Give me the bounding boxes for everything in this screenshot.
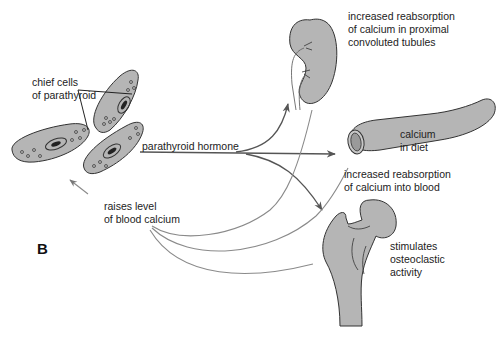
hormone-arrows	[140, 104, 335, 210]
label-line: activity	[390, 266, 445, 279]
label-line: chief cells	[32, 76, 96, 89]
label-line: osteoclastic	[390, 253, 445, 266]
label-line: of blood calcium	[104, 213, 180, 226]
label-line: stimulates	[390, 240, 445, 253]
label-line: of calcium in proximal	[348, 23, 455, 36]
kidney-illustration	[290, 19, 337, 110]
label-line: parathyroid hormone	[142, 140, 239, 152]
bone-label: stimulates osteoclastic activity	[390, 240, 445, 279]
label-line: calcium	[400, 128, 436, 141]
label-line: of parathyroid	[32, 89, 96, 102]
intestine-inner-label: calcium in diet	[400, 128, 436, 154]
kidney-label: increased reabsorption of calcium in pro…	[348, 10, 455, 49]
label-line: raises level	[104, 200, 180, 213]
label-line: of calcium into blood	[344, 181, 451, 194]
chief-cell-left	[12, 124, 89, 163]
hormone-label: parathyroid hormone	[142, 140, 239, 153]
label-line: increased reabsorption	[348, 10, 455, 23]
feedback-label: raises level of blood calcium	[104, 200, 180, 226]
femur-illustration	[323, 200, 396, 326]
label-line: increased reabsorption	[344, 168, 451, 181]
label-line: convoluted tubules	[348, 36, 455, 49]
chief-cells-label: chief cells of parathyroid	[32, 76, 96, 102]
intestine-label: increased reabsorption of calcium into b…	[344, 168, 451, 194]
panel-label: B	[37, 240, 48, 257]
label-line: in diet	[400, 141, 436, 154]
